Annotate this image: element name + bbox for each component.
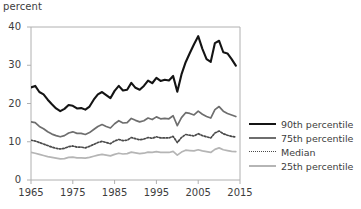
chart-figure: percent 010203040 1965197519851995200520… [0, 0, 361, 209]
legend-line-swatch [249, 161, 276, 171]
legend-item[interactable]: 25th percentile [249, 159, 361, 173]
legend-item[interactable]: 90th percentile [249, 117, 361, 131]
series-line-25th-percentile [31, 148, 236, 159]
legend-item-label: Median [281, 147, 316, 158]
legend-line-swatch [249, 147, 276, 157]
legend-item-label: 90th percentile [281, 119, 353, 130]
legend-line-swatch [249, 119, 276, 129]
series-group [31, 36, 236, 159]
series-line-median [31, 131, 236, 149]
legend-item-label: 25th percentile [281, 161, 353, 172]
legend-item-label: 75th percentile [281, 133, 353, 144]
series-line-90th-percentile [31, 36, 236, 111]
legend-line-swatch [249, 133, 276, 143]
chart-legend: 90th percentile75th percentileMedian25th… [249, 117, 361, 173]
legend-item[interactable]: 75th percentile [249, 131, 361, 145]
plot-area [0, 0, 361, 209]
legend-item[interactable]: Median [249, 145, 361, 159]
